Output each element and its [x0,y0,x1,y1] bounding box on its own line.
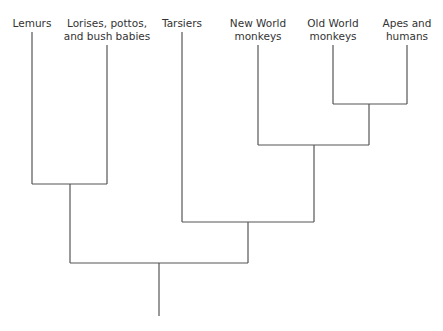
tree-lines [0,0,443,331]
